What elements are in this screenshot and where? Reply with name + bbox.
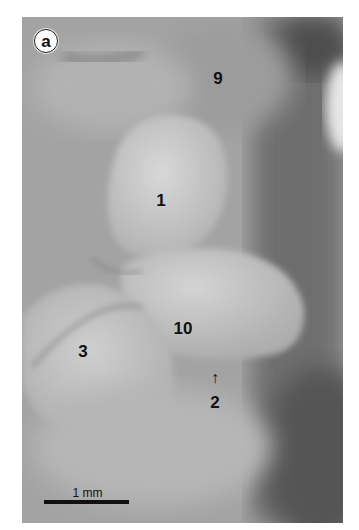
arrow-up-icon: ↑	[211, 370, 219, 386]
structure-label-10: 10	[174, 320, 193, 337]
tissue-image	[22, 17, 343, 523]
structure-label-9: 9	[213, 70, 222, 87]
structure-label-2: 2	[210, 394, 219, 411]
structure-label-3: 3	[78, 343, 87, 360]
scale-bar-label: 1 mm	[45, 486, 130, 500]
microscopy-photo: a 9 1 10 3 ↑ 2 1 mm	[22, 17, 343, 523]
scale-bar	[44, 500, 129, 504]
structure-label-1: 1	[156, 192, 165, 209]
panel-label-badge: a	[34, 29, 58, 53]
